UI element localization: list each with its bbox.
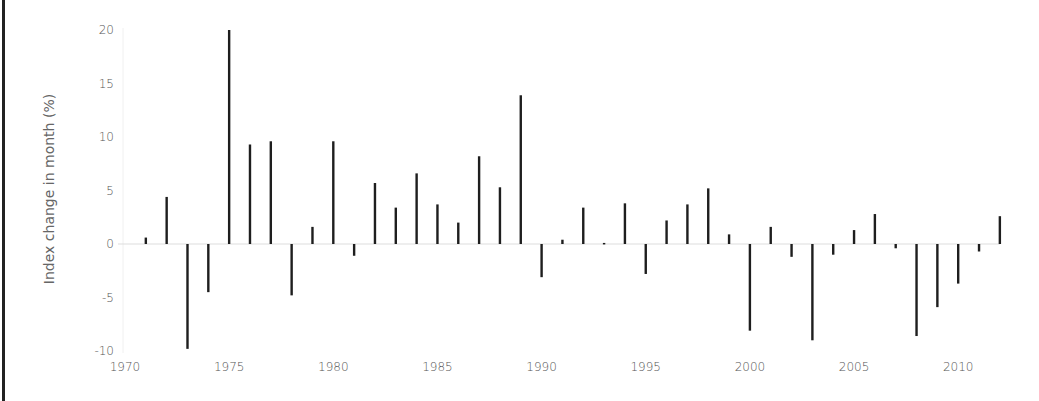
bar-1990	[540, 244, 542, 277]
bar-2006	[874, 214, 876, 244]
x-axis: 197019751980198519901995200020052010	[110, 244, 1000, 374]
bar-2005	[853, 230, 855, 244]
bar-1978	[290, 244, 292, 295]
x-tick-label: 1970	[110, 360, 141, 374]
x-tick-label: 1995	[630, 360, 661, 374]
bar-1981	[353, 244, 355, 256]
bar-2000	[749, 244, 751, 331]
bar-1991	[561, 240, 563, 244]
x-tick-label: 1990	[526, 360, 557, 374]
x-tick-label: 1985	[422, 360, 453, 374]
bar-1996	[665, 220, 667, 244]
bar-2009	[936, 244, 938, 307]
bar-2004	[832, 244, 834, 255]
bar-1989	[520, 95, 522, 244]
bar-1994	[624, 203, 626, 244]
bar-2012	[999, 216, 1001, 244]
bar-2002	[790, 244, 792, 257]
bars	[145, 30, 1001, 349]
bar-1986	[457, 223, 459, 244]
y-tick-label: 15	[99, 77, 114, 91]
y-tick-label: 20	[99, 23, 114, 37]
bar-1987	[478, 156, 480, 244]
bar-1972	[165, 197, 167, 244]
bar-1992	[582, 208, 584, 244]
bar-chart: 20151050-5-10 19701975198019851990199520…	[0, 0, 1039, 401]
bar-1974	[207, 244, 209, 292]
bar-1997	[686, 204, 688, 244]
bar-1985	[436, 204, 438, 244]
x-tick-label: 2005	[839, 360, 870, 374]
bar-1975	[228, 30, 230, 244]
bar-1995	[645, 244, 647, 274]
x-tick-label: 1980	[318, 360, 349, 374]
bar-1982	[374, 183, 376, 244]
bar-2003	[811, 244, 813, 340]
bar-1977	[270, 141, 272, 244]
bar-1983	[395, 208, 397, 244]
bar-2011	[978, 244, 980, 251]
bar-1979	[311, 227, 313, 244]
bar-1980	[332, 141, 334, 244]
x-tick-label: 2000	[735, 360, 766, 374]
y-tick-label: 5	[106, 184, 114, 198]
y-tick-label: -5	[102, 291, 114, 305]
bar-1998	[707, 188, 709, 244]
y-axis: 20151050-5-10	[94, 23, 123, 358]
bar-2001	[770, 227, 772, 244]
bar-1973	[186, 244, 188, 349]
bar-1971	[145, 238, 147, 244]
x-tick-label: 2010	[943, 360, 974, 374]
bar-2007	[895, 244, 897, 248]
bar-1999	[728, 234, 730, 244]
bar-1984	[415, 173, 417, 244]
bar-2010	[957, 244, 959, 284]
bar-1988	[499, 187, 501, 244]
x-tick-label: 1975	[214, 360, 245, 374]
bar-2008	[915, 244, 917, 336]
y-tick-label: 10	[99, 130, 114, 144]
y-tick-label: -10	[94, 344, 114, 358]
y-axis-title: Index change in month (%)	[41, 94, 57, 284]
y-tick-label: 0	[106, 237, 114, 251]
bar-1976	[249, 144, 251, 244]
bar-1993	[603, 243, 605, 245]
